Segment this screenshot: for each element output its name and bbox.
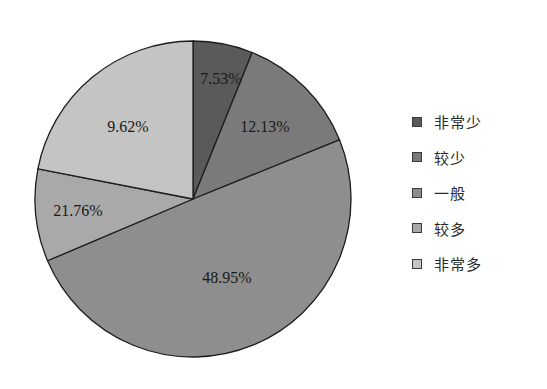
legend-swatch-more [412,223,422,233]
slice-label-more: 21.76% [53,202,102,219]
legend-item-very-many: 非常多 [412,246,482,282]
slice-label-few: 12.13% [240,118,289,135]
legend-label: 较少 [434,147,466,168]
legend-label: 非常多 [434,253,482,274]
legend-label: 非常少 [434,111,482,132]
legend-swatch-very-few [412,117,422,127]
legend-swatch-average [412,188,422,198]
legend-item-more: 较多 [412,211,482,247]
legend-swatch-few [412,152,422,162]
legend-swatch-very-many [412,259,422,269]
legend-item-very-few: 非常少 [412,104,482,140]
slice-label-very-many: 9.62% [107,118,148,135]
legend-label: 一般 [434,182,466,203]
slice-label-very-few: 7.53% [200,70,241,87]
pie-slices [35,41,351,357]
legend-label: 较多 [434,218,466,239]
legend-item-few: 较少 [412,140,482,176]
chart-legend: 非常少 较少 一般 较多 非常多 [412,104,482,282]
legend-item-average: 一般 [412,175,482,211]
slice-label-average: 48.95% [202,269,251,286]
